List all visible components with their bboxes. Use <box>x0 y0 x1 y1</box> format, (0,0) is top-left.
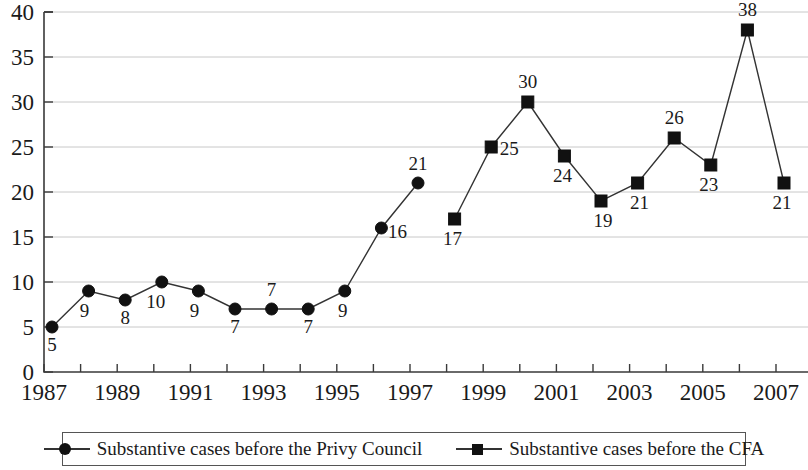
data-point-marker <box>375 222 387 234</box>
data-point-marker <box>558 150 570 162</box>
x-axis-tick-label: 2001 <box>533 380 579 405</box>
data-point-marker <box>412 177 424 189</box>
x-axis-tick-label: 1987 <box>21 380 67 405</box>
data-point-marker <box>705 159 717 171</box>
data-point-label: 25 <box>500 138 519 159</box>
legend-label-cfa: Substantive cases before the CFA <box>509 438 764 460</box>
data-point-label: 16 <box>388 221 407 242</box>
data-point-marker <box>119 294 131 306</box>
x-axis-tick-label: 1991 <box>167 380 213 405</box>
x-axis-tick-label: 1993 <box>241 380 287 405</box>
data-point-label: 23 <box>699 174 718 195</box>
x-axis-tick-label: 2005 <box>680 380 726 405</box>
data-point-marker <box>778 177 790 189</box>
y-axis-tick-label: 20 <box>11 180 34 205</box>
data-point-marker <box>668 132 680 144</box>
series-line-cfa <box>455 30 784 219</box>
data-point-label: 24 <box>553 165 573 186</box>
y-axis-tick-label: 30 <box>11 90 34 115</box>
plot-area: 0510152025303540198719891991199319951997… <box>0 0 808 425</box>
line-chart: 0510152025303540198719891991199319951997… <box>0 0 808 470</box>
data-point-label: 21 <box>409 153 428 174</box>
data-point-label: 9 <box>338 300 348 321</box>
data-point-marker <box>741 24 753 36</box>
data-point-label: 19 <box>594 210 613 231</box>
data-point-marker <box>522 96 534 108</box>
data-point-label: 7 <box>230 316 240 337</box>
x-axis-tick-label: 1989 <box>94 380 140 405</box>
x-axis-tick-label: 1995 <box>314 380 360 405</box>
data-point-label: 10 <box>146 291 165 312</box>
x-axis-tick-label: 2003 <box>607 380 653 405</box>
y-axis-tick-label: 10 <box>11 270 34 295</box>
data-point-marker <box>156 276 168 288</box>
data-point-label: 8 <box>120 307 130 328</box>
data-point-label: 7 <box>267 279 277 300</box>
y-axis-tick-label: 5 <box>23 315 35 340</box>
data-point-marker <box>302 303 314 315</box>
data-point-label: 21 <box>630 192 649 213</box>
data-point-label: 30 <box>518 71 537 92</box>
square-marker-icon <box>456 442 502 456</box>
data-point-label: 21 <box>773 192 792 213</box>
data-point-marker <box>46 321 58 333</box>
y-axis-tick-label: 15 <box>11 225 34 250</box>
legend-entry-privy-council: Substantive cases before the Privy Counc… <box>44 438 423 460</box>
data-point-marker <box>192 285 204 297</box>
data-point-marker <box>595 195 607 207</box>
y-axis-tick-label: 35 <box>11 45 34 70</box>
chart-legend: Substantive cases before the Privy Counc… <box>62 432 746 466</box>
data-point-label: 17 <box>443 228 462 249</box>
data-point-marker <box>485 141 497 153</box>
data-point-marker <box>266 303 278 315</box>
data-point-marker <box>229 303 241 315</box>
data-point-label: 5 <box>47 334 57 355</box>
data-point-marker <box>339 285 351 297</box>
data-point-label: 38 <box>738 0 757 20</box>
circle-marker-icon <box>44 442 90 456</box>
x-axis-tick-label: 1997 <box>387 380 433 405</box>
data-point-label: 26 <box>665 107 684 128</box>
data-point-marker <box>83 285 95 297</box>
legend-label-privy-council: Substantive cases before the Privy Counc… <box>97 438 423 460</box>
data-point-marker <box>449 213 461 225</box>
data-point-label: 7 <box>303 316 313 337</box>
data-point-label: 9 <box>190 300 200 321</box>
legend-entry-cfa: Substantive cases before the CFA <box>456 438 764 460</box>
x-axis-tick-label: 1999 <box>460 380 506 405</box>
y-axis-tick-label: 25 <box>11 135 34 160</box>
y-axis-tick-label: 40 <box>11 0 34 25</box>
data-point-label: 9 <box>80 300 90 321</box>
data-point-marker <box>632 177 644 189</box>
x-axis-tick-label: 2007 <box>753 380 799 405</box>
